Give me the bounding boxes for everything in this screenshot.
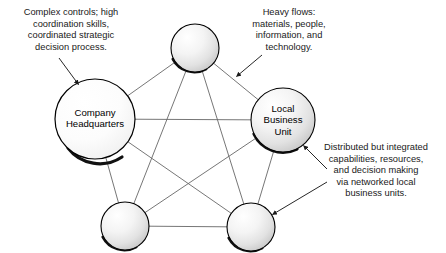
edge-top-bottomleft [125, 48, 195, 226]
node-bottom-right-unit[interactable] [227, 203, 275, 251]
node-top-unit[interactable] [171, 24, 219, 72]
annotation-distributed-capabilities: Distributed but integrated capabilities,… [308, 142, 444, 200]
diagram-canvas: Company Headquarters Local Business Unit… [0, 0, 446, 253]
edge-top-bottomright [195, 48, 251, 227]
node-local-business-unit[interactable] [251, 88, 315, 152]
arrow-complex-controls [59, 58, 79, 85]
annotation-complex-controls: Complex controls; high coordination skil… [2, 7, 140, 53]
node-bottom-left-unit[interactable] [101, 202, 149, 250]
node-company-headquarters[interactable] [55, 79, 135, 159]
arrow-heavy-flows [237, 55, 263, 77]
annotation-heavy-flows: Heavy flows: materials, people, informat… [228, 7, 350, 53]
